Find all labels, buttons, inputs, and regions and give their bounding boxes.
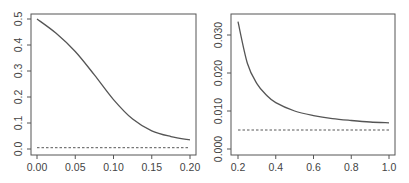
- y-tick-label: 0.030: [212, 22, 224, 48]
- x-tick-label: 0.4: [268, 161, 283, 173]
- y-axis: 0.0000.0100.0200.030: [212, 22, 231, 162]
- y-tick-label: 0.4: [12, 38, 24, 53]
- y-axis: 0.00.10.20.30.40.5: [12, 12, 31, 157]
- curve-line: [37, 19, 190, 140]
- y-tick-label: 0.010: [212, 98, 224, 124]
- y-tick-label: 0.5: [12, 12, 24, 27]
- x-tick-label: 0.15: [142, 161, 163, 173]
- x-tick-label: 0.20: [180, 161, 201, 173]
- x-tick-label: 0.05: [65, 161, 86, 173]
- x-tick-label: 1.0: [382, 161, 397, 173]
- y-tick-label: 0.0: [12, 142, 24, 157]
- y-tick-label: 0.3: [12, 64, 24, 79]
- chart-panel-1: 0.000.050.100.150.200.00.10.20.30.40.5: [12, 12, 200, 173]
- y-tick-label: 0.020: [212, 60, 224, 86]
- y-tick-label: 0.1: [12, 116, 24, 131]
- plot-frame: [31, 14, 196, 155]
- x-tick-label: 0.8: [344, 161, 359, 173]
- chart-canvas: 0.000.050.100.150.200.00.10.20.30.40.50.…: [0, 0, 409, 183]
- x-axis: 0.20.40.60.81.0: [231, 155, 397, 173]
- x-tick-label: 0.00: [27, 161, 48, 173]
- y-tick-label: 0.2: [12, 90, 24, 105]
- plot-frame: [231, 14, 395, 155]
- x-tick-label: 0.10: [103, 161, 124, 173]
- curve-line: [238, 22, 389, 123]
- chart-panel-2: 0.20.40.60.81.00.0000.0100.0200.030: [212, 14, 396, 173]
- y-tick-label: 0.000: [212, 136, 224, 162]
- x-tick-label: 0.2: [231, 161, 246, 173]
- x-axis: 0.000.050.100.150.20: [27, 155, 201, 173]
- x-tick-label: 0.6: [306, 161, 321, 173]
